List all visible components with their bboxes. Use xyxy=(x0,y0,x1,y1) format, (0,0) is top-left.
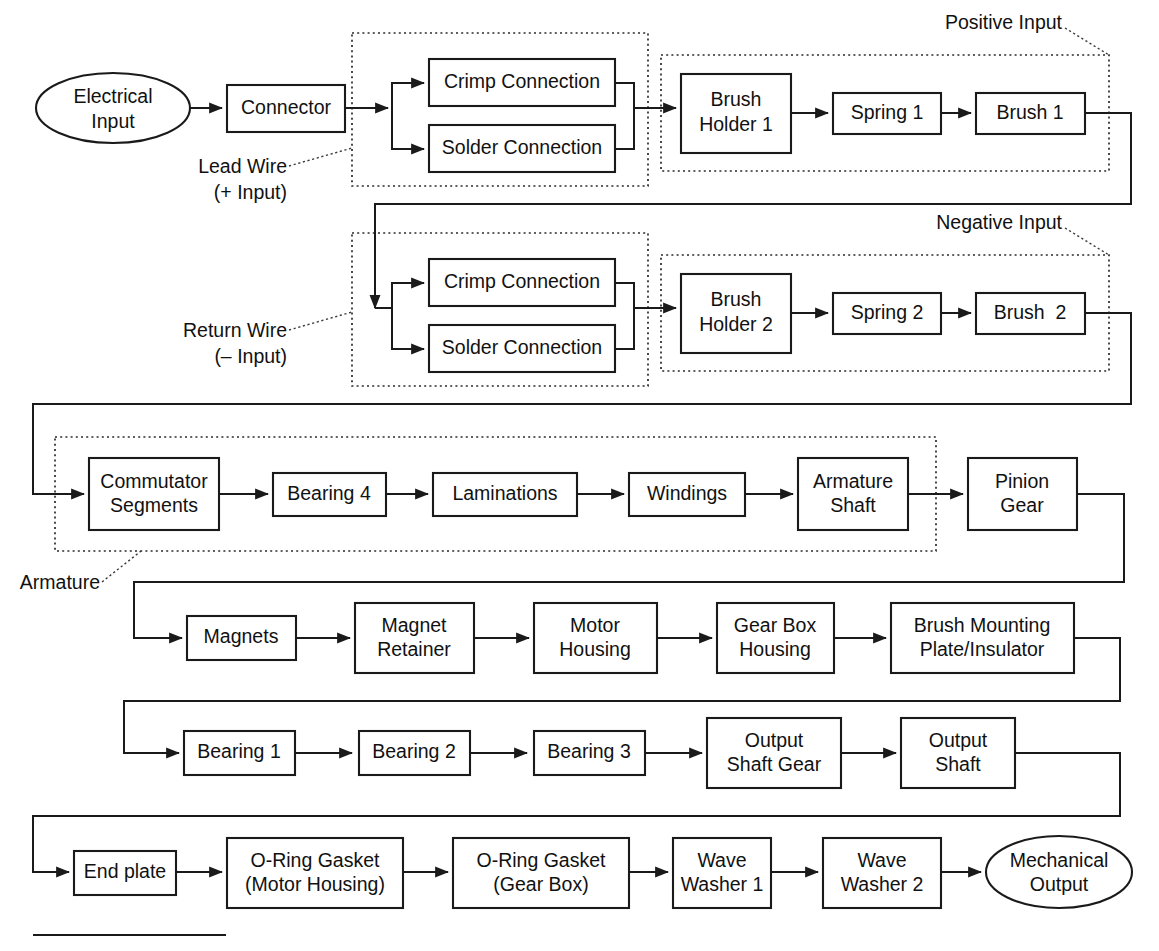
connector-split2-to-crimp2 xyxy=(392,283,424,308)
node-output-shaft-line2: Shaft xyxy=(935,753,981,775)
node-crimp-connection-2-label: Crimp Connection xyxy=(444,270,600,292)
node-pinion-gear-line2: Gear xyxy=(1000,494,1044,516)
node-wave-washer-1-line1: Wave xyxy=(697,849,746,871)
node-magnet-retainer-line2: Retainer xyxy=(377,638,451,660)
leader-return-wire xyxy=(289,312,352,330)
node-brush-2-label: Brush 2 xyxy=(994,301,1067,323)
node-motor-housing-line1: Motor xyxy=(570,614,620,636)
node-brush-holder-1-line1: Brush xyxy=(711,88,762,110)
node-brush-mounting-plate-line2: Plate/Insulator xyxy=(920,638,1045,660)
group-label-armature: Armature xyxy=(20,571,100,593)
node-connector-label: Connector xyxy=(241,96,331,118)
node-output-shaft-gear-line2: Shaft Gear xyxy=(727,753,822,775)
node-output-shaft-gear-line1: Output xyxy=(745,729,804,751)
node-bearing-2-label: Bearing 2 xyxy=(372,740,455,762)
connector-split1-to-crimp1 xyxy=(392,83,424,108)
leader-armature xyxy=(102,551,141,582)
node-gear-box-housing-line2: Housing xyxy=(739,638,811,660)
node-motor-housing-line2: Housing xyxy=(559,638,631,660)
node-wave-washer-1-line2: Washer 1 xyxy=(681,873,764,895)
motor-block-diagram: Electrical Input Connector Crimp Connect… xyxy=(0,0,1159,951)
node-magnets-label: Magnets xyxy=(204,625,279,647)
node-windings-label: Windings xyxy=(647,482,727,504)
diagram-canvas: Electrical Input Connector Crimp Connect… xyxy=(0,0,1159,951)
group-label-return-wire-line1: Return Wire xyxy=(183,319,287,341)
node-spring-1-label: Spring 1 xyxy=(851,101,924,123)
terminal-mechanical-output[interactable] xyxy=(986,836,1132,908)
node-magnet-retainer-line1: Magnet xyxy=(381,614,447,636)
node-commutator-segments-line1: Commutator xyxy=(100,470,208,492)
node-wave-washer-2-line2: Washer 2 xyxy=(841,873,924,895)
group-label-return-wire-line2: (– Input) xyxy=(214,345,287,367)
node-o-ring-gasket-motor-line2: (Motor Housing) xyxy=(245,873,385,895)
leader-positive-input xyxy=(1065,28,1109,55)
node-solder-connection-2-label: Solder Connection xyxy=(442,336,602,358)
node-armature-shaft-line1: Armature xyxy=(813,470,893,492)
group-label-negative-input: Negative Input xyxy=(936,211,1062,233)
node-o-ring-gasket-motor-line1: O-Ring Gasket xyxy=(251,849,381,871)
node-brush-mounting-plate-line1: Brush Mounting xyxy=(914,614,1051,636)
node-gear-box-housing-line1: Gear Box xyxy=(734,614,817,636)
leader-negative-input xyxy=(1065,228,1109,255)
terminal-mechanical-output-line1: Mechanical xyxy=(1010,849,1109,871)
terminal-electrical-input-line1: Electrical xyxy=(73,85,152,107)
group-label-lead-wire-line1: Lead Wire xyxy=(198,155,287,177)
node-laminations-label: Laminations xyxy=(452,482,557,504)
node-bearing-3-label: Bearing 3 xyxy=(547,740,630,762)
connector-split2-to-solder2 xyxy=(392,308,424,349)
connector-solder1-merge xyxy=(615,108,634,149)
connector-solder2-merge xyxy=(615,308,634,349)
node-bearing-4-label: Bearing 4 xyxy=(287,482,371,504)
node-brush-1-label: Brush 1 xyxy=(996,101,1063,123)
leader-lead-wire xyxy=(289,148,352,166)
group-label-positive-input: Positive Input xyxy=(945,11,1063,33)
node-brush-holder-1-line2: Holder 1 xyxy=(699,113,773,135)
node-commutator-segments-line2: Segments xyxy=(110,494,198,516)
group-label-lead-wire-line2: (+ Input) xyxy=(214,181,287,203)
node-output-shaft-line1: Output xyxy=(929,729,988,751)
node-spring-2-label: Spring 2 xyxy=(851,301,924,323)
node-brush-holder-2-line2: Holder 2 xyxy=(699,313,773,335)
node-pinion-gear-line1: Pinion xyxy=(995,470,1049,492)
terminal-electrical-input[interactable] xyxy=(36,73,190,143)
node-crimp-connection-1-label: Crimp Connection xyxy=(444,70,600,92)
node-bearing-1-label: Bearing 1 xyxy=(197,740,280,762)
node-armature-shaft-line2: Shaft xyxy=(830,494,876,516)
node-end-plate-label: End plate xyxy=(84,860,166,882)
node-o-ring-gasket-gearbox-line2: (Gear Box) xyxy=(493,873,588,895)
terminal-electrical-input-line2: Input xyxy=(91,110,135,132)
node-o-ring-gasket-gearbox-line1: O-Ring Gasket xyxy=(477,849,607,871)
connector-crimp2-merge xyxy=(615,283,634,308)
connector-crimp1-merge xyxy=(615,83,634,108)
node-brush-holder-2-line1: Brush xyxy=(711,288,762,310)
node-solder-connection-1-label: Solder Connection xyxy=(442,136,602,158)
node-wave-washer-2-line1: Wave xyxy=(857,849,906,871)
connector-split1-to-solder1 xyxy=(392,108,424,149)
terminal-mechanical-output-line2: Output xyxy=(1030,873,1089,895)
